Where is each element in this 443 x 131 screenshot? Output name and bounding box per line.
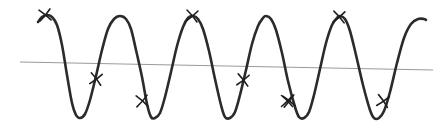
waveform-figure [0, 0, 443, 131]
waveform-canvas [0, 0, 443, 131]
